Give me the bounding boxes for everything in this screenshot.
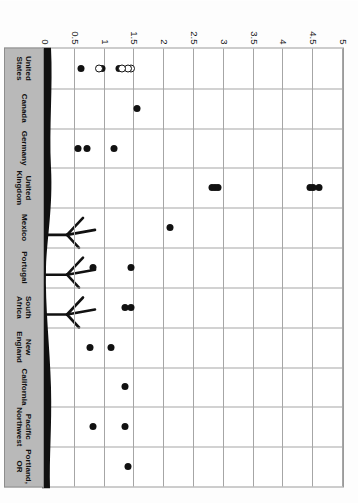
vertical-gridline	[45, 207, 343, 208]
vertical-gridline	[45, 247, 343, 248]
category-label-germany: Germany	[5, 126, 43, 170]
y-axis-tick-1-5: 1.5	[129, 31, 140, 44]
vertical-gridline	[45, 446, 343, 447]
data-point	[134, 104, 141, 111]
category-label-new-england: New England	[5, 325, 43, 369]
data-point	[167, 224, 174, 231]
category-label-united-states: United States	[5, 46, 43, 90]
y-axis-tick-1: 1	[99, 39, 110, 44]
vertical-gridline	[45, 128, 343, 129]
horizontal-gridline	[223, 48, 224, 486]
data-point	[208, 184, 215, 191]
horizontal-gridline	[282, 48, 283, 486]
category-label-california: California	[5, 364, 43, 408]
data-point	[89, 264, 96, 271]
horizontal-gridline	[104, 48, 105, 486]
category-label-mexico: Mexico	[5, 205, 43, 249]
data-point	[118, 64, 126, 72]
data-point	[316, 184, 323, 191]
vertical-gridline	[45, 406, 343, 407]
rotated-figure-container: Electricity Demand in 2050 as a Multiple…	[0, 0, 358, 503]
horizontal-gridline	[312, 48, 313, 486]
horizontal-gridline	[342, 48, 343, 486]
horizontal-gridline	[74, 48, 75, 486]
data-point	[110, 144, 117, 151]
y-axis-tick-3-5: 3.5	[248, 31, 259, 44]
data-point	[307, 184, 314, 191]
horizontal-gridline	[163, 48, 164, 486]
category-axis-band: United StatesCanadaGermanyUnited Kingdom…	[4, 47, 44, 487]
data-point	[95, 64, 103, 72]
data-point	[122, 383, 129, 390]
plot-area	[44, 47, 344, 487]
data-point	[74, 144, 81, 151]
category-label-portugal: Portugal	[5, 245, 43, 289]
category-label-south-africa: South Africa	[5, 285, 43, 329]
data-point	[77, 64, 84, 71]
data-point	[86, 343, 93, 350]
annotation-layer	[27, 95, 329, 503]
data-point	[128, 303, 135, 310]
y-axis-tick-0-5: 0.5	[69, 31, 80, 44]
category-label-portland-or: Portland, OR	[5, 444, 43, 488]
category-label-canada: Canada	[5, 86, 43, 130]
vertical-gridline	[45, 287, 343, 288]
data-point	[83, 144, 90, 151]
vertical-gridline	[45, 367, 343, 368]
scatter-chart: Electricity Demand in 2050 as a Multiple…	[0, 0, 358, 503]
y-axis-tick-3: 3	[218, 39, 229, 44]
y-axis-tick-4: 4	[278, 39, 289, 44]
y-axis-tick-4-5: 4.5	[308, 31, 319, 44]
vertical-gridline	[45, 88, 343, 89]
y-axis-tick-5: 5	[338, 39, 349, 44]
y-axis-tick-labels: 00.511.522.533.544.55	[44, 20, 344, 46]
data-point	[122, 423, 129, 430]
data-point	[128, 264, 135, 271]
data-point	[89, 423, 96, 430]
horizontal-gridline	[193, 48, 194, 486]
vertical-gridline	[45, 167, 343, 168]
data-point	[107, 343, 114, 350]
y-axis-tick-2-5: 2.5	[189, 31, 200, 44]
y-axis-tick-2: 2	[159, 39, 170, 44]
vertical-gridline	[45, 327, 343, 328]
category-label-pacific-northwest: Pacific Northwest	[5, 404, 43, 448]
y-axis-tick-0: 0	[40, 39, 51, 44]
category-label-united-kingdom: United Kingdom	[5, 165, 43, 209]
data-point	[125, 463, 132, 470]
horizontal-gridline	[253, 48, 254, 486]
